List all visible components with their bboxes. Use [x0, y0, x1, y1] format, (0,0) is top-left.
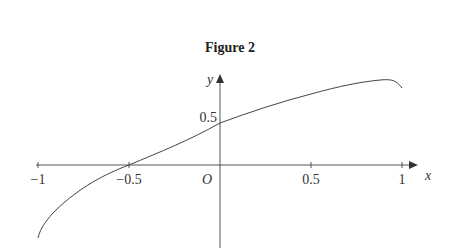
x-tick-label: −1: [31, 172, 46, 187]
origin-label: O: [202, 172, 212, 187]
x-tick-label: 1: [399, 172, 406, 187]
figure: Figure 2 −1 −0.5 0.5 1 O 0.5 x y: [0, 0, 460, 250]
y-axis-arrow-icon: [216, 74, 224, 83]
x-axis-label: x: [424, 168, 432, 183]
y-axis-label: y: [205, 72, 214, 87]
x-axis-arrow-icon: [409, 161, 418, 169]
chart: −1 −0.5 0.5 1 O 0.5 x y: [0, 0, 460, 250]
x-tick-label: −0.5: [116, 172, 141, 187]
x-tick-label: 0.5: [302, 172, 320, 187]
y-tick-label: 0.5: [200, 110, 218, 125]
